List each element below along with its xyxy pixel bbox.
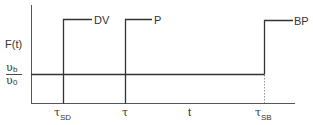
dv-label: DV — [94, 14, 110, 26]
dv-step-line — [64, 20, 93, 104]
bp-label: BP — [294, 15, 309, 27]
tau-sb-subscript: SB — [261, 113, 272, 122]
p-label: P — [154, 14, 161, 26]
step-function-diagram: DV P BP F(t) υ b υ 0 τ SD τ t τ SB — [0, 0, 313, 125]
x-axis-label: t — [188, 106, 191, 118]
p-step-line — [126, 20, 153, 104]
upper-level-symbol: υ — [6, 61, 13, 74]
upper-level-subscript: b — [13, 65, 18, 74]
tau-sd-subscript: SD — [60, 113, 71, 122]
y-axis-label: F(t) — [5, 38, 22, 50]
lower-level-symbol: υ — [6, 74, 13, 87]
tau-symbol: τ — [122, 106, 128, 119]
bp-step-line — [265, 21, 294, 75]
lower-level-subscript: 0 — [13, 78, 18, 87]
